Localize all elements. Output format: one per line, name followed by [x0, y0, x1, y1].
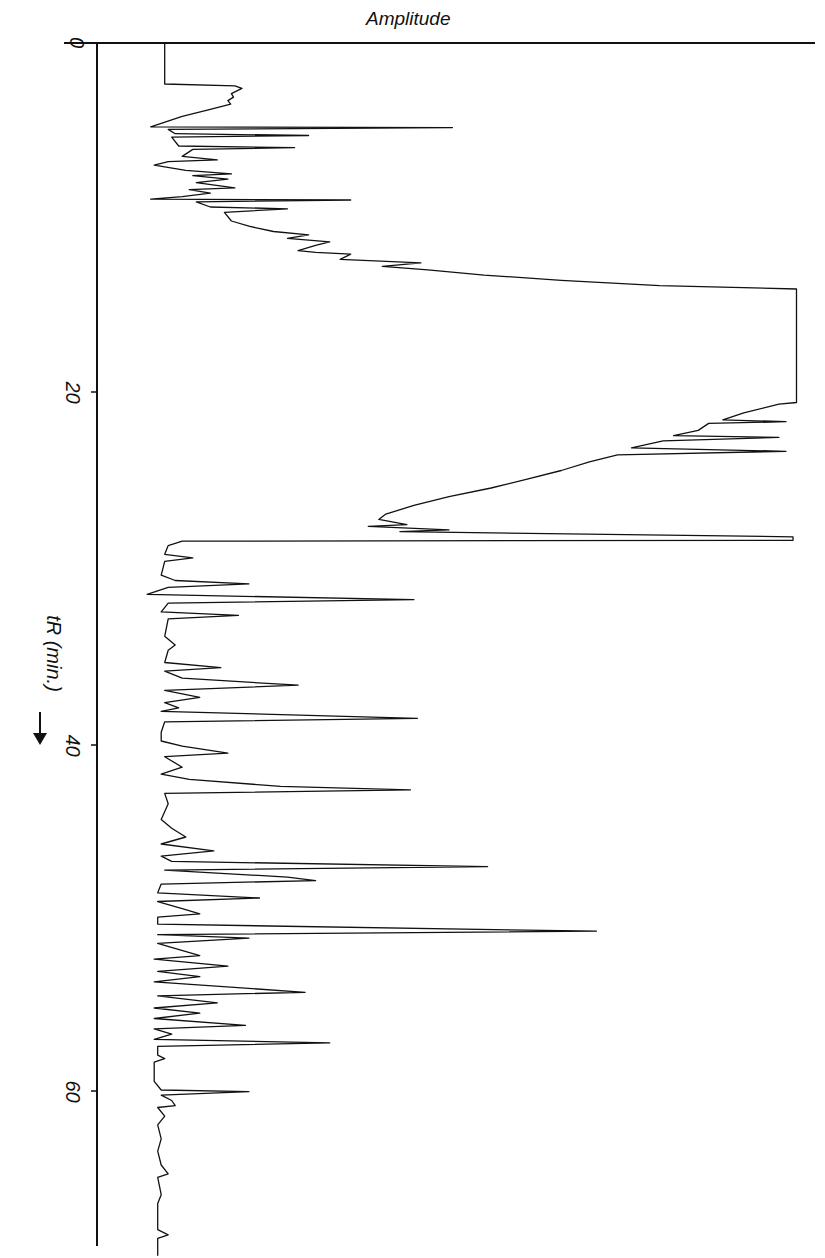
chromatogram-trace — [147, 43, 796, 1256]
chromatogram-plot — [0, 0, 825, 1258]
down-arrow-icon — [33, 712, 47, 745]
